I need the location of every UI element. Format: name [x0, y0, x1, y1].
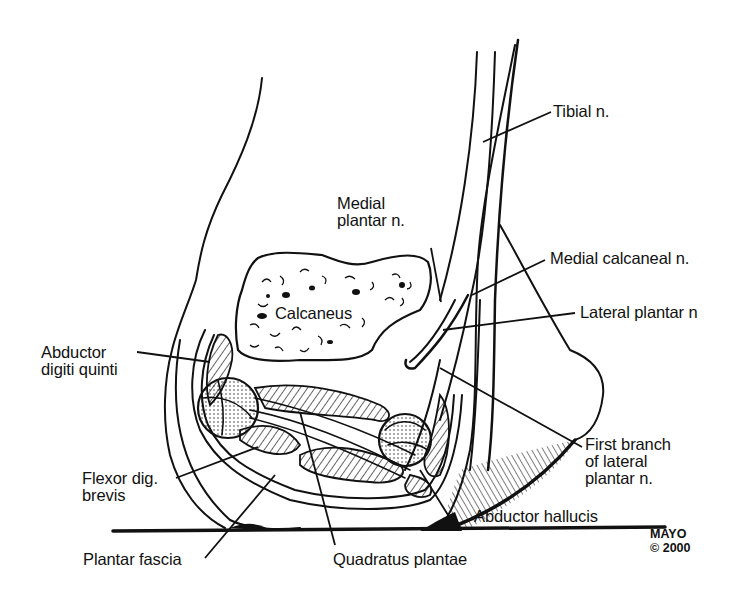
- label-quadratus-plantae: Quadratus plantae: [333, 551, 467, 568]
- label-lateral-plantar-n: Lateral plantar n: [580, 304, 698, 321]
- label-calcaneus: Calcaneus: [274, 305, 353, 322]
- label-abductor-digiti-quinti: Abductor digiti quinti: [41, 344, 118, 378]
- credit-org: MAYO: [650, 528, 686, 541]
- heel-cross-section-figure: Tibial n. Medial plantar n. Medial calca…: [0, 0, 750, 595]
- credit-copyright: © 2000: [650, 542, 691, 555]
- label-medial-calcaneal-n: Medial calcaneal n.: [550, 250, 689, 267]
- anatomy-drawing: [0, 0, 750, 595]
- label-plantar-fascia: Plantar fascia: [83, 551, 182, 568]
- label-first-branch-lateral-plantar-n: First branch of lateral plantar n.: [585, 436, 671, 487]
- label-abductor-hallucis: Abductor hallucis: [474, 508, 598, 525]
- label-flexor-dig-brevis: Flexor dig. brevis: [82, 470, 158, 504]
- label-medial-plantar-n: Medial plantar n.: [337, 195, 405, 229]
- label-tibial-n: Tibial n.: [553, 103, 609, 120]
- plantar-compartments: [192, 330, 462, 509]
